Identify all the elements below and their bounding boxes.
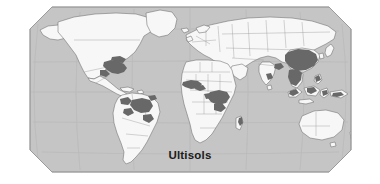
world-map-figure: Ultisols [0, 0, 380, 184]
paper-texture-overlay [30, 7, 351, 172]
world-map-canvas: Ultisols [0, 0, 380, 184]
map-title: Ultisols [168, 149, 211, 161]
